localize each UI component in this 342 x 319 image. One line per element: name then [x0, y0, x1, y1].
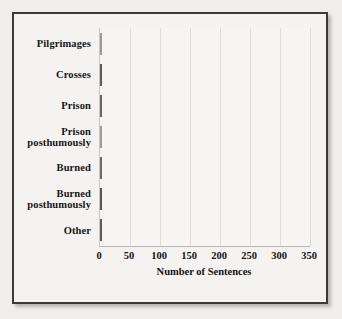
category-label-line: Prison: [13, 126, 91, 138]
figure-root: PilgrimagesCrossesPrisonPrisonposthumous…: [0, 0, 342, 319]
category-label-prison: Prison: [13, 100, 91, 112]
category-label-crosses: Crosses: [13, 69, 91, 81]
x-tick-label: 350: [301, 250, 317, 261]
category-label-line: Prison: [13, 100, 91, 112]
category-label-burned-posthumously: Burnedposthumously: [13, 188, 91, 211]
gridline: [250, 28, 251, 246]
bar-fill: [100, 95, 102, 117]
bar-prison-posthumously: [100, 126, 112, 148]
bar-fill: [100, 33, 102, 55]
x-axis-title: Number of Sentences: [99, 266, 309, 277]
bar-burned: [100, 157, 122, 179]
category-label-line: Burned: [13, 188, 91, 200]
bar-fill: [100, 126, 102, 148]
gridline: [310, 28, 311, 246]
plot-area: [99, 28, 310, 247]
bar-other: [100, 219, 130, 241]
x-tick-label: 100: [151, 250, 167, 261]
bar-crosses: [100, 64, 181, 86]
x-tick-label: 200: [211, 250, 227, 261]
category-label-line: Other: [13, 225, 91, 237]
category-label-line: Burned: [13, 162, 91, 174]
category-label-line: Crosses: [13, 69, 91, 81]
category-label-other: Other: [13, 225, 91, 237]
bar-fill: [100, 64, 102, 86]
bar-fill: [100, 219, 102, 241]
bar-prison: [100, 95, 286, 117]
gridline: [190, 28, 191, 246]
category-label-prison-posthumously: Prisonposthumously: [13, 126, 91, 149]
bar-fill: [100, 157, 102, 179]
category-label-line: posthumously: [13, 199, 91, 211]
gridline: [220, 28, 221, 246]
bar-burned-posthumously: [100, 188, 142, 210]
x-tick-label: 0: [96, 250, 101, 261]
gridline: [280, 28, 281, 246]
category-label-line: Pilgrimages: [13, 38, 91, 50]
gridline: [160, 28, 161, 246]
bar-pilgrimages: [100, 33, 112, 55]
category-label-burned: Burned: [13, 162, 91, 174]
chart-frame: PilgrimagesCrossesPrisonPrisonposthumous…: [12, 12, 328, 304]
gridline: [130, 28, 131, 246]
plot-wrapper: PilgrimagesCrossesPrisonPrisonposthumous…: [14, 14, 326, 302]
x-tick-label: 150: [181, 250, 197, 261]
category-label-line: posthumously: [13, 137, 91, 149]
bar-fill: [100, 188, 102, 210]
x-tick-label: 50: [124, 250, 135, 261]
category-label-pilgrimages: Pilgrimages: [13, 38, 91, 50]
x-tick-label: 250: [241, 250, 257, 261]
x-tick-label: 300: [271, 250, 287, 261]
